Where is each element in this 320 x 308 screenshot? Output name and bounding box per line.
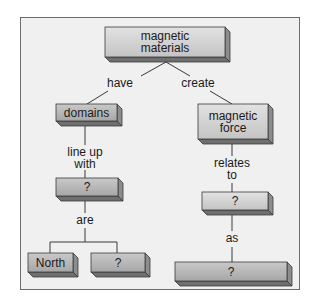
link-label-have: have [106,77,134,89]
node-magnetic-materials-label: magnetic materials [141,30,190,54]
node-magnetic-force: magnetic force [198,104,268,139]
node-pole-unknown-label: ? [115,257,122,269]
link-label-are: are [75,214,94,226]
node-bottom-unknown: ? [175,262,287,281]
link-label-relates-to-line2: to [227,168,237,182]
link-label-line-up-with-line2: with [74,157,95,171]
node-magnetic-materials-line2: materials [141,41,190,55]
node-north-label: North [36,257,65,269]
concept-map-frame [20,17,300,290]
node-right-unknown-label: ? [232,195,239,207]
node-domains: domains [56,104,117,121]
link-label-relates-to: relates to [213,157,251,181]
node-pole-unknown: ? [91,253,145,272]
node-right-unknown: ? [202,192,268,210]
node-magnetic-force-line2: force [220,121,247,135]
node-bottom-unknown-label: ? [228,266,235,278]
link-label-as: as [225,232,240,244]
node-magnetic-materials: magnetic materials [105,27,225,57]
node-north: North [28,253,73,272]
link-label-line-up-with: line up with [66,146,103,170]
node-domains-label: domains [64,107,109,119]
node-left-unknown: ? [56,178,118,196]
link-label-create: create [180,77,215,89]
node-left-unknown-label: ? [84,181,91,193]
node-magnetic-force-label: magnetic force [209,110,258,134]
